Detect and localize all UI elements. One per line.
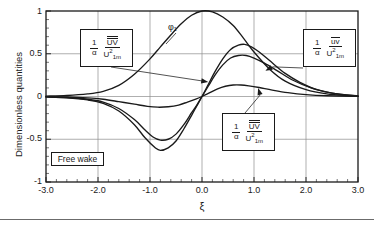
arrowhead — [258, 88, 263, 95]
arrowhead — [201, 78, 208, 83]
chart-plot — [0, 0, 374, 227]
figure-container: 1 0.5 0 -0.5 -1 Dimensionless quantities… — [0, 0, 374, 227]
